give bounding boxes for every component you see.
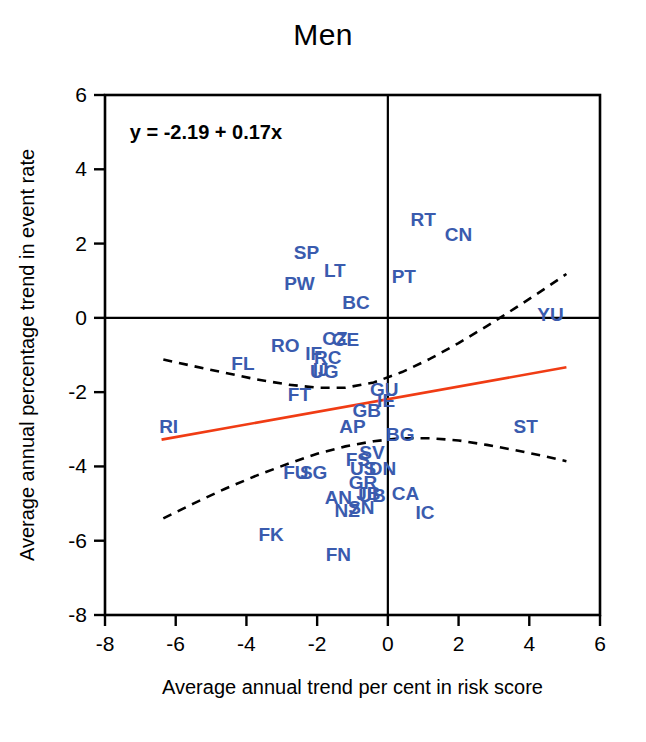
data-point-label: CN [445, 224, 472, 245]
reference-lines [105, 95, 600, 615]
data-point-labels: RTCNSPLTPTPWBCYUCZGEROIFRCFLIJUGGUFTIEGB… [159, 209, 564, 564]
y-tick-label: -2 [68, 380, 87, 403]
y-tick-label: 4 [75, 157, 87, 180]
data-point-label: RT [411, 209, 437, 230]
data-point-label: FT [288, 384, 312, 405]
confidence-band-upper [163, 274, 566, 388]
y-tick-label: -4 [68, 454, 87, 477]
data-point-label: IC [415, 502, 434, 523]
equation-text: y = -2.19 + 0.17x [130, 121, 282, 143]
data-point-label: UG [310, 361, 339, 382]
data-point-label: YU [537, 304, 563, 325]
data-point-label: FL [231, 353, 255, 374]
x-tick-label: 2 [453, 632, 465, 655]
y-tick-label: 0 [75, 306, 87, 329]
data-point-label: AP [339, 416, 366, 437]
x-tick-label: -8 [96, 632, 115, 655]
scatter-plot: -8-6-4-20246-8-6-4-20246 RTCNSPLTPTPWBCY… [0, 0, 646, 742]
data-point-label: SG [300, 462, 327, 483]
x-axis-title: Average annual trend per cent in risk sc… [162, 676, 543, 698]
data-point-label: PW [284, 273, 315, 294]
y-tick-label: 6 [75, 83, 87, 106]
x-tick-label: 6 [594, 632, 606, 655]
data-point-label: BC [342, 292, 370, 313]
plot-border [105, 95, 600, 615]
data-point-label: PT [392, 266, 417, 287]
y-tick-label: -6 [68, 529, 87, 552]
y-tick-label: -8 [68, 603, 87, 626]
x-tick-label: -4 [237, 632, 256, 655]
data-point-label: NZ [335, 500, 361, 521]
data-point-label: FN [326, 544, 351, 565]
data-point-label: FK [259, 524, 285, 545]
data-point-label: BG [386, 424, 415, 445]
x-tick-label: 4 [523, 632, 535, 655]
data-point-label: RI [159, 416, 178, 437]
x-tick-label: 0 [382, 632, 394, 655]
chart-root: Men -8-6-4-20246-8-6-4-20246 RTCNSPLTPTP… [0, 0, 646, 742]
data-point-label: ST [514, 416, 539, 437]
data-point-label: LT [324, 260, 346, 281]
regression-equation: y = -2.19 + 0.17x [130, 121, 282, 143]
data-point-label: SP [294, 242, 320, 263]
x-tick-label: -2 [308, 632, 327, 655]
y-axis-title: Average annual percentage trend in event… [16, 149, 38, 561]
y-tick-label: 2 [75, 232, 87, 255]
x-tick-label: -6 [166, 632, 185, 655]
plot-frame [105, 95, 600, 615]
data-point-label: RO [271, 335, 300, 356]
